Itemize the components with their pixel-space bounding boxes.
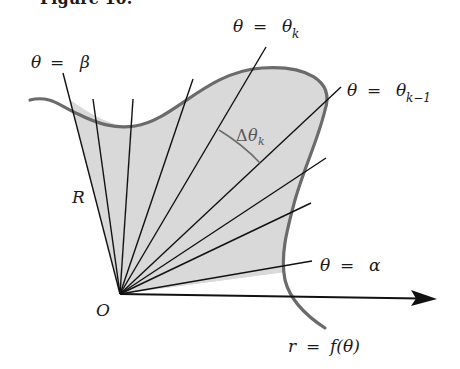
- shaded-region-wedge: [70, 68, 327, 294]
- svg-text:Δ: Δ: [236, 126, 248, 145]
- svg-text:α: α: [369, 255, 381, 275]
- svg-text:θ: θ: [282, 16, 292, 36]
- svg-text:r: r: [288, 336, 297, 356]
- label-theta-k-minus-1: θ = θ k−1: [347, 80, 431, 105]
- label-curve-r-f-theta: r = f(θ): [288, 336, 360, 356]
- partial-figure-heading: Figure 10.: [40, 0, 132, 8]
- label-radius-R: R: [71, 187, 85, 207]
- label-theta-beta: θ = β: [31, 52, 90, 72]
- label-theta-k: θ = θ k: [233, 16, 299, 41]
- svg-text:k−1: k−1: [406, 91, 431, 105]
- svg-text:f(θ): f(θ): [328, 336, 360, 356]
- svg-text:θ: θ: [233, 16, 243, 36]
- svg-text:θ: θ: [396, 80, 406, 100]
- svg-text:=: =: [340, 255, 354, 275]
- label-theta-alpha: θ = α: [320, 255, 381, 275]
- svg-text:θ: θ: [347, 80, 357, 100]
- svg-text:θ: θ: [248, 126, 258, 145]
- svg-text:k: k: [258, 135, 265, 148]
- svg-text:=: =: [367, 80, 381, 100]
- polar-area-diagram: Figure 10. θ = β θ = θ k θ = θ k−1: [0, 0, 460, 369]
- svg-text:θ: θ: [320, 255, 330, 275]
- svg-text:k: k: [292, 27, 299, 41]
- svg-text:=: =: [50, 52, 64, 72]
- svg-text:=: =: [253, 16, 267, 36]
- polar-axis: [120, 294, 420, 299]
- svg-text:=: =: [306, 336, 320, 356]
- label-origin-O: O: [96, 300, 110, 320]
- svg-text:β: β: [79, 52, 90, 72]
- svg-text:θ: θ: [31, 52, 41, 72]
